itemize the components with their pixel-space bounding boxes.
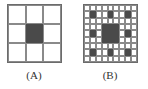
- grid-b: [83, 4, 138, 63]
- empty-cell: [8, 5, 26, 24]
- empty-cell: [8, 43, 26, 62]
- filled-cell: [26, 24, 44, 43]
- grid-a: [7, 4, 62, 63]
- panel-b-label: (B): [90, 69, 130, 81]
- empty-cell: [43, 43, 61, 62]
- empty-cell: [43, 5, 61, 24]
- empty-cell: [8, 24, 26, 43]
- empty-cell: [26, 5, 44, 24]
- empty-cell: [26, 43, 44, 62]
- empty-cell: [131, 56, 137, 62]
- panel-a-label: (A): [14, 69, 54, 81]
- empty-cell: [43, 24, 61, 43]
